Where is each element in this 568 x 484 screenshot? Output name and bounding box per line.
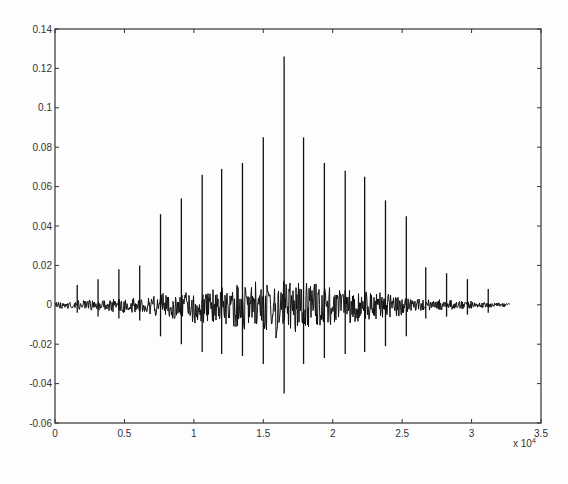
- x-tick-label: 0: [52, 428, 58, 439]
- x-tick-label: 0.5: [117, 428, 131, 439]
- spike-series: [77, 57, 488, 394]
- y-tick-label: 0.14: [33, 24, 53, 35]
- y-tick-label: 0.12: [33, 63, 53, 74]
- y-tick-label: 0: [46, 299, 52, 310]
- signal-trace: [55, 281, 510, 338]
- x-tick-label: 1.5: [256, 428, 270, 439]
- x-tick-label: 1: [191, 428, 197, 439]
- x-axis: 00.511.522.533.5: [52, 29, 548, 439]
- x-tick-label: 2: [330, 428, 336, 439]
- y-tick-label: 0.02: [33, 260, 53, 271]
- y-tick-label: -0.06: [29, 418, 52, 429]
- y-tick-label: -0.02: [29, 339, 52, 350]
- y-tick-label: 0.1: [38, 102, 52, 113]
- y-axis: -0.06-0.04-0.0200.020.040.060.080.10.120…: [29, 24, 541, 429]
- plot-frame: [55, 29, 541, 423]
- x-multiplier-label: x 104: [513, 437, 536, 449]
- y-tick-label: 0.06: [33, 181, 53, 192]
- y-tick-label: -0.04: [29, 378, 52, 389]
- x-tick-label: 2.5: [395, 428, 409, 439]
- x-tick-label: 3: [469, 428, 475, 439]
- x-tick-label: 3.5: [534, 428, 548, 439]
- y-tick-label: 0.08: [33, 142, 53, 153]
- chart: 00.511.522.533.5 -0.06-0.04-0.0200.020.0…: [0, 0, 568, 484]
- y-tick-label: 0.04: [33, 221, 53, 232]
